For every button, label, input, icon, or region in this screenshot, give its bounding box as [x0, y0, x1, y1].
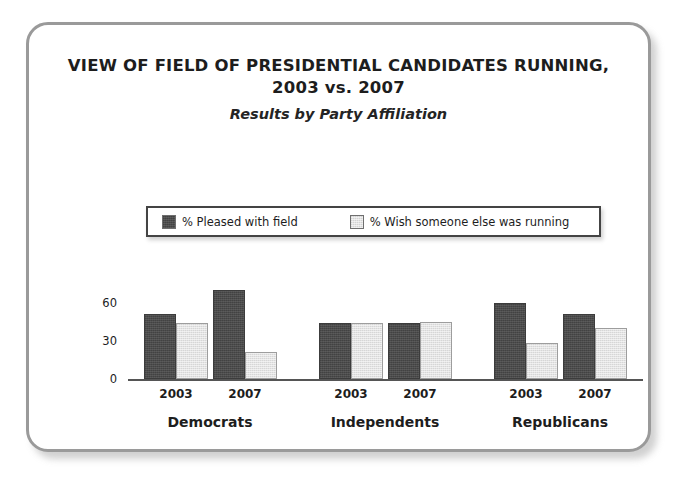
- x-label-democrats-2007: 2007: [210, 387, 280, 401]
- x-label-independents-2003: 2003: [316, 387, 386, 401]
- bar-independents-2007-wish[interactable]: [420, 322, 452, 379]
- bar-independents-2007-pleased[interactable]: [388, 323, 420, 379]
- bar-republicans-2007-wish[interactable]: [595, 328, 627, 379]
- x-label-democrats-2003: 2003: [141, 387, 211, 401]
- x-label-independents-2007: 2007: [385, 387, 455, 401]
- bar-democrats-2003-wish[interactable]: [176, 323, 208, 379]
- bar-democrats-2007-wish[interactable]: [245, 352, 277, 379]
- plot-area: 60 30 0 2003 2007 2003 2007: [29, 25, 648, 449]
- bar-democrats-2003-pleased[interactable]: [144, 314, 176, 379]
- bar-republicans-2003-pleased[interactable]: [494, 303, 526, 379]
- group-label-republicans: Republicans: [470, 414, 650, 430]
- bars-layer: [29, 25, 648, 379]
- x-label-republicans-2007: 2007: [560, 387, 630, 401]
- x-axis-line: [128, 379, 643, 381]
- bar-independents-2003-pleased[interactable]: [319, 323, 351, 379]
- bar-independents-2003-wish[interactable]: [351, 323, 383, 379]
- chart-card: VIEW OF FIELD OF PRESIDENTIAL CANDIDATES…: [26, 22, 651, 452]
- group-label-democrats: Democrats: [120, 414, 300, 430]
- bar-republicans-2003-wish[interactable]: [526, 343, 558, 379]
- x-label-republicans-2003: 2003: [491, 387, 561, 401]
- bar-democrats-2007-pleased[interactable]: [213, 290, 245, 379]
- group-label-independents: Independents: [295, 414, 475, 430]
- bar-republicans-2007-pleased[interactable]: [563, 314, 595, 379]
